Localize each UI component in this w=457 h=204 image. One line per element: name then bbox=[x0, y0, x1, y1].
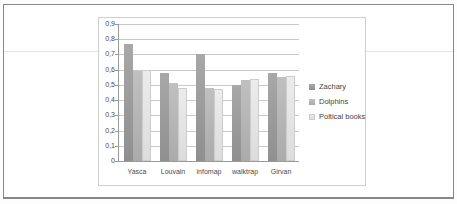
plot-area: 0,90,80,70,60,50,40,30,20,10YascaLouvain… bbox=[119, 24, 299, 161]
bar-zachary-louvain bbox=[160, 73, 169, 161]
x-axis-category-label: Girvan bbox=[263, 167, 299, 176]
legend-marker-icon bbox=[309, 84, 315, 90]
bar-poltical-books-walktrap bbox=[250, 79, 259, 161]
y-axis-tick bbox=[115, 131, 118, 132]
y-axis-tick-label: 0,7 bbox=[95, 50, 115, 58]
y-axis-tick-label: 0,1 bbox=[95, 142, 115, 150]
bar-poltical-books-yasca bbox=[142, 70, 151, 161]
bar-dolphins-walktrap bbox=[241, 80, 250, 161]
y-axis-tick-label: 0,2 bbox=[95, 127, 115, 135]
x-axis-category-label: walktrap bbox=[227, 167, 263, 176]
bar-group-louvain bbox=[155, 24, 191, 161]
bar-zachary-infomap bbox=[196, 54, 205, 161]
y-axis-tick bbox=[115, 85, 118, 86]
bar-poltical-books-louvain bbox=[178, 88, 187, 161]
y-axis-tick bbox=[115, 146, 118, 147]
legend-marker-icon bbox=[309, 114, 315, 120]
bar-dolphins-louvain bbox=[169, 83, 178, 161]
bar-dolphins-infomap bbox=[205, 88, 214, 161]
legend-label: Dolphins bbox=[319, 97, 348, 106]
bar-poltical-books-infomap bbox=[214, 89, 223, 161]
legend: ZacharyDolphinsPoltical books bbox=[309, 82, 365, 127]
y-axis-tick-label: 0 bbox=[95, 157, 115, 165]
bar-group-infomap bbox=[191, 24, 227, 161]
y-axis-tick-label: 0,8 bbox=[95, 35, 115, 43]
x-axis-category-label: Louvain bbox=[155, 167, 191, 176]
y-axis-tick bbox=[115, 54, 118, 55]
bar-zachary-yasca bbox=[124, 44, 133, 161]
x-axis-category-label: infomap bbox=[191, 167, 227, 176]
y-axis-tick-label: 0,5 bbox=[95, 81, 115, 89]
y-axis-tick bbox=[115, 161, 118, 162]
bar-dolphins-yasca bbox=[133, 71, 142, 161]
x-axis-baseline bbox=[119, 161, 299, 162]
bar-zachary-girvan bbox=[268, 73, 277, 161]
x-axis-category-label: Yasca bbox=[119, 167, 155, 176]
bar-group-walktrap bbox=[227, 24, 263, 161]
legend-item-poltical-books: Poltical books bbox=[309, 112, 365, 121]
document-page: 0,90,80,70,60,50,40,30,20,10YascaLouvain… bbox=[0, 0, 457, 204]
legend-item-dolphins: Dolphins bbox=[309, 97, 365, 106]
y-axis-tick bbox=[115, 70, 118, 71]
bar-group-girvan bbox=[263, 24, 299, 161]
legend-marker-icon bbox=[309, 99, 315, 105]
y-axis-tick-label: 0,9 bbox=[95, 20, 115, 28]
bar-zachary-walktrap bbox=[232, 85, 241, 161]
y-axis-tick bbox=[115, 115, 118, 116]
y-axis-tick-label: 0,3 bbox=[95, 111, 115, 119]
legend-item-zachary: Zachary bbox=[309, 82, 365, 91]
legend-label: Poltical books bbox=[319, 112, 365, 121]
bar-dolphins-girvan bbox=[277, 77, 286, 161]
bar-group-yasca bbox=[119, 24, 155, 161]
y-axis-tick-label: 0,4 bbox=[95, 96, 115, 104]
bar-poltical-books-girvan bbox=[286, 76, 295, 161]
y-axis-tick bbox=[115, 24, 118, 25]
legend-label: Zachary bbox=[319, 82, 346, 91]
chart: 0,90,80,70,60,50,40,30,20,10YascaLouvain… bbox=[98, 17, 366, 186]
y-axis-tick bbox=[115, 39, 118, 40]
y-axis-tick bbox=[115, 100, 118, 101]
y-axis-tick-label: 0,6 bbox=[95, 66, 115, 74]
